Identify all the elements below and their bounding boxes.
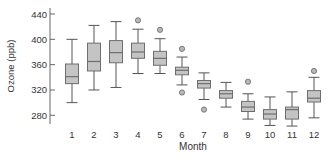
box-series [66, 18, 321, 126]
outlier-point [311, 68, 316, 73]
box-month-7 [198, 73, 211, 112]
x-tick-label: 7 [201, 129, 206, 140]
box-month-6 [176, 46, 189, 95]
x-axis-label: Month [179, 141, 207, 152]
box-month-8 [220, 82, 233, 107]
x-tick-label: 10 [265, 129, 276, 140]
y-tick-label: 400 [31, 34, 47, 45]
y-axis: 280320360400440 [31, 8, 55, 124]
box-month-12 [308, 68, 321, 117]
x-tick-label: 5 [157, 129, 162, 140]
box-month-3 [110, 22, 123, 88]
box-month-11 [286, 92, 299, 126]
ozone-boxplot-chart: 280320360400440 123456789101112 Ozone (p… [0, 0, 329, 162]
outlier-point [179, 90, 184, 95]
y-axis-label: Ozone (ppb) [5, 40, 16, 93]
outlier-point [201, 107, 206, 112]
y-tick-label: 360 [31, 59, 47, 70]
y-tick-label: 440 [31, 9, 47, 20]
x-tick-label: 1 [69, 129, 74, 140]
box-month-4 [132, 18, 145, 74]
x-tick-label: 3 [113, 129, 118, 140]
box-month-1 [66, 39, 79, 102]
y-tick-label: 280 [31, 110, 47, 121]
x-tick-label: 6 [179, 129, 184, 140]
outlier-point [245, 79, 250, 84]
x-tick-label: 4 [135, 129, 140, 140]
x-axis: 123456789101112 [69, 129, 319, 140]
x-tick-label: 11 [287, 129, 297, 140]
y-tick-label: 320 [31, 84, 47, 95]
box-month-10 [264, 97, 277, 125]
plot-area: 280320360400440 123456789101112 Ozone (p… [0, 0, 329, 162]
outlier-point [135, 18, 140, 23]
x-tick-label: 12 [309, 129, 320, 140]
box-month-2 [88, 25, 101, 90]
x-tick-label: 2 [91, 129, 96, 140]
x-tick-label: 9 [245, 129, 250, 140]
box-month-5 [154, 27, 167, 73]
box-month-9 [242, 79, 255, 119]
x-tick-label: 8 [223, 129, 228, 140]
outlier-point [179, 46, 184, 51]
outlier-point [157, 27, 162, 32]
